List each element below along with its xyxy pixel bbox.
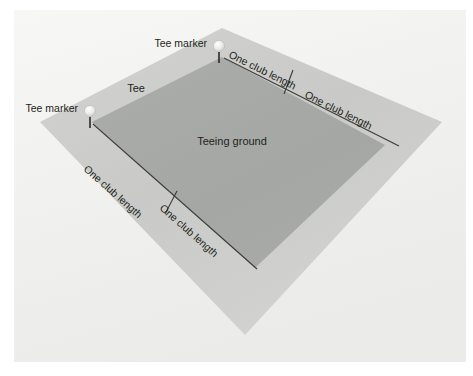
label-tee-marker-top: Tee marker [154, 37, 207, 49]
label-tee: Tee [127, 82, 145, 94]
tee-marker-top-ball [213, 40, 224, 51]
golf-teeing-ground-diagram: Teeing ground Tee Tee marker Tee marker … [0, 0, 473, 376]
label-teeing-ground: Teeing ground [197, 135, 267, 147]
diagram-canvas: Teeing ground Tee Tee marker Tee marker … [0, 0, 473, 376]
tee-marker-left-ball [84, 105, 95, 116]
label-tee-marker-left: Tee marker [25, 102, 78, 114]
